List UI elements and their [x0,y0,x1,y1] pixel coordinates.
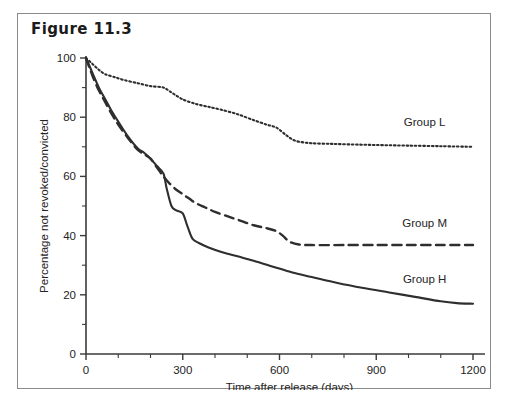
x-tick-label: 900 [367,364,386,376]
x-tick-label: 0 [83,364,89,376]
y-tick-label: 100 [57,52,76,64]
x-tick-label: 300 [173,364,192,376]
y-axis-tick-labels: 020406080100 [57,52,76,360]
series-line-group-h [86,58,473,304]
x-axis-tick-labels: 03006009001200 [83,364,486,376]
series-line-group-l [86,58,473,147]
y-tick-label: 80 [63,111,76,123]
y-tick-label: 60 [63,170,76,182]
chart-canvas: 020406080100 03006009001200 Group LGroup… [18,14,492,390]
x-axis-major-ticks [86,354,473,360]
y-axis-title: Percentage not revoked/convicted [38,119,50,293]
x-tick-label: 1200 [460,364,486,376]
y-tick-label: 20 [63,289,76,301]
x-axis-title: Time after release (days) [226,381,354,390]
figure-frame: Figure 11.3 020406080100 03006009001200 … [17,13,491,389]
x-tick-label: 600 [270,364,289,376]
y-tick-label: 40 [63,230,76,242]
series-label-group-l: Group L [404,116,446,128]
series-label-group-m: Group M [402,217,447,229]
series-labels: Group LGroup MGroup H [402,116,447,285]
series-curves [86,58,473,304]
series-label-group-h: Group H [403,273,446,285]
y-tick-label: 0 [70,348,76,360]
